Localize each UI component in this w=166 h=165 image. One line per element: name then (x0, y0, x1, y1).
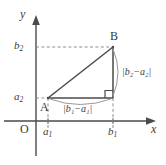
x-tick-a1-sub: 1 (49, 130, 53, 139)
point-label-b: B (110, 30, 118, 42)
y-axis-arrowhead (32, 15, 40, 25)
x-axis-label: x (151, 123, 156, 135)
distance-label-horizontal: |b₁−a₁| (63, 104, 92, 114)
y-axis-label: y (20, 8, 25, 20)
x-tick-b1-sub: 1 (114, 130, 118, 139)
diagram-canvas (0, 0, 166, 165)
hypotenuse-AB (48, 47, 113, 98)
y-tick-a2-sub: 2 (20, 95, 24, 104)
point-label-a: A (40, 101, 49, 113)
x-tick-a1: a1 (43, 126, 52, 138)
right-triangle (48, 47, 113, 98)
projection-lines (36, 47, 113, 128)
point-a-dot (47, 97, 49, 99)
point-b-dot (112, 46, 114, 48)
coordinate-diagram: y x O b2 a2 a1 b1 A B |b₂−a₂| |b₁−a₁| (0, 0, 166, 165)
y-tick-b2-sub: 2 (20, 44, 24, 53)
y-tick-b2: b2 (14, 40, 23, 52)
distance-label-vertical: |b₂−a₂| (122, 67, 151, 77)
right-angle-marker (105, 91, 113, 99)
origin-label: O (20, 123, 29, 135)
x-tick-b1: b1 (108, 126, 117, 138)
y-axis (32, 15, 40, 156)
y-tick-a2: a2 (14, 91, 23, 103)
